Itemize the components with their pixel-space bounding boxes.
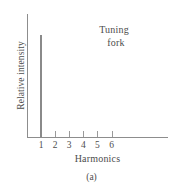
x-axis-line — [27, 137, 168, 138]
x-axis-label: Harmonics — [27, 152, 168, 165]
x-tick-4 — [83, 131, 84, 137]
x-tick-label-5: 5 — [90, 139, 104, 151]
bar-harmonic-1 — [40, 35, 42, 138]
figure-tuning-fork-spectrum: Relative intensity Tuning fork 123456 Ha… — [0, 0, 183, 191]
x-tick-label-2: 2 — [48, 139, 62, 151]
x-tick-label-6: 6 — [105, 139, 119, 151]
x-tick-3 — [69, 131, 70, 137]
x-tick-2 — [55, 131, 56, 137]
figure-caption: (a) — [0, 171, 183, 184]
x-tick-5 — [97, 131, 98, 137]
annotation-line-2: fork — [90, 37, 142, 50]
x-tick-label-4: 4 — [76, 139, 90, 151]
chart-annotation-tuning-fork: Tuning fork — [86, 24, 142, 49]
x-tick-label-3: 3 — [62, 139, 76, 151]
x-tick-6 — [112, 131, 113, 137]
x-tick-label-1: 1 — [34, 139, 48, 151]
y-axis-label: Relative intensity — [14, 14, 28, 137]
annotation-line-1: Tuning — [86, 24, 142, 37]
